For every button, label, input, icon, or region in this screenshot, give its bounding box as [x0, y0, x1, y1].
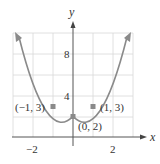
y-tick-4: 4 [64, 90, 70, 102]
x-axis-arrow-icon [140, 135, 147, 140]
point-left-label: (−1, 3) [15, 101, 45, 114]
x-axis-label: x [149, 130, 156, 144]
curve-arrow-left-icon [15, 32, 22, 42]
point-right-label: (1, 3) [100, 101, 124, 114]
point-vertex [71, 114, 76, 119]
point-right [91, 104, 96, 109]
point-vertex-label: (0, 2) [78, 120, 102, 133]
x-tick-2: 2 [110, 143, 116, 155]
x-axis: x −2 2 [12, 130, 156, 155]
y-axis-label: y [68, 5, 75, 19]
point-left [51, 104, 56, 109]
y-axis: y 8 4 [64, 5, 76, 146]
y-tick-8: 8 [64, 48, 70, 60]
parabola-chart: x −2 2 y 8 4 (−1, 3) (0, 2) (1, 3) [0, 0, 160, 164]
x-tick-neg2: −2 [26, 143, 38, 155]
y-axis-arrow-icon [71, 21, 76, 28]
curve-arrow-right-icon [124, 32, 131, 42]
